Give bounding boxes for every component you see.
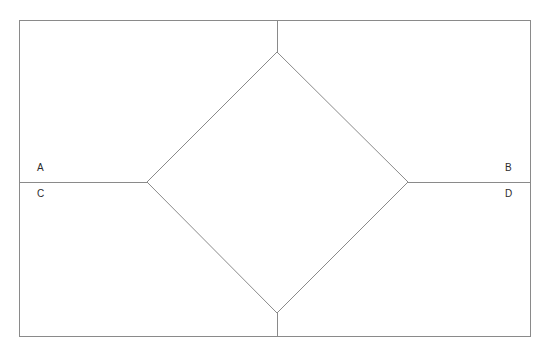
- vertex-label-b: B: [505, 163, 512, 173]
- diagram-strokes: [19, 20, 531, 337]
- vertex-label-d: D: [505, 189, 512, 199]
- vertex-label-a: A: [37, 163, 44, 173]
- vertex-label-c: C: [37, 189, 44, 199]
- figure-canvas: A C B D: [0, 0, 548, 355]
- geometry-diagram: [0, 0, 548, 355]
- outer-rectangle: [20, 21, 531, 337]
- inner-square-rotated: [147, 52, 408, 313]
